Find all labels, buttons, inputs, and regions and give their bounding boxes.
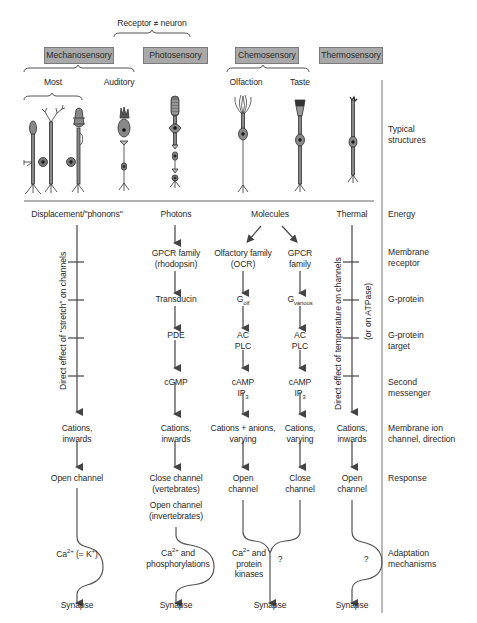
cell-mechano-1 (24, 121, 41, 194)
olf-gtarget: ACPLC (235, 330, 251, 351)
row-label-adaptation: Adaptationmechanisms (388, 548, 436, 569)
category-mechanosensory: Mechanosensory (44, 47, 114, 64)
photo-energy: Photons (161, 209, 192, 220)
photo-gtarget: PDE (167, 330, 184, 341)
photo-adaptation: Ca2+ andphosphorylations (146, 548, 209, 569)
photo-channel: Cations,inwards (161, 423, 192, 444)
photo-response: Close channel(vertebrates) (149, 473, 202, 494)
mechano-response: Open channel (51, 473, 103, 484)
brace-chemo (227, 65, 309, 72)
row-label-gtarget: G-proteintarget (388, 330, 424, 351)
cell-photoreceptor (169, 96, 181, 188)
photo-gprotein: Transducin (155, 294, 196, 305)
mechano-channel: Cations,inwards (62, 423, 93, 444)
cell-mechano-2 (39, 105, 66, 193)
cell-mechano-3 (67, 108, 86, 193)
subgroup-auditory: Auditory (104, 77, 135, 88)
olf-second: cAMPIP3 (232, 377, 255, 398)
row-label-energy: Energy (388, 209, 415, 220)
olf-response: Openchannel (228, 473, 257, 494)
photo-response-2: Open channel(invertebrates) (149, 500, 203, 521)
row-label-channel: Membrane ionchannel, direction (388, 423, 455, 444)
thermo-energy: Thermal (337, 209, 368, 220)
olf-gprotein: Golf (237, 294, 250, 305)
photo-receptor: GPCR family(rhodopsin) (152, 248, 201, 269)
taste-response: Closechannel (285, 473, 314, 494)
thermo-channel: Cations,inwards (337, 423, 368, 444)
taste-receptor: GPCRfamily (288, 248, 312, 269)
cell-thermoreceptor (348, 97, 358, 183)
category-chemosensory: Chemosensory (235, 47, 299, 64)
taste-second: cAMPIP3 (289, 377, 312, 398)
row-label-structures: Typicalstructures (388, 124, 426, 145)
thermo-response: Openchannel (337, 473, 366, 494)
cell-auditory (118, 107, 130, 191)
brace-most (24, 93, 82, 100)
cell-taste (295, 100, 305, 192)
mechano-energy: Displacement/"phonons" (31, 209, 122, 220)
subgroup-olfaction: Olfaction (229, 77, 262, 88)
photo-synapse: Synapse (160, 600, 193, 611)
photo-second: cGMP (164, 377, 187, 388)
thermo-adapt-curve (352, 500, 382, 603)
receptor-neuron-note: Receptor ≠ neuron (117, 18, 186, 29)
thermo-synapse: Synapse (336, 600, 369, 611)
brace-mechano (24, 65, 134, 72)
category-thermosensory: Thermosensory (319, 47, 383, 64)
chemo-energy: Molecules (251, 209, 289, 220)
mechano-vertical-note: Direct effect of "stretch" on channels (58, 252, 68, 390)
chemo-adaptation: Ca2+ andproteinkinases (232, 548, 266, 580)
taste-gprotein: Gvarious (287, 294, 312, 305)
cell-olfactory (235, 95, 251, 193)
taste-gtarget: ACPLC (292, 330, 308, 351)
row-label-second-messenger: Secondmessenger (388, 377, 431, 398)
taste-channel: Cations,varying (285, 423, 316, 444)
thermo-question: ? (364, 554, 369, 565)
category-photosensory: Photosensory (143, 47, 208, 64)
olf-receptor: Olfactory family(OCR) (214, 248, 272, 269)
row-label-receptor: Membranereceptor (388, 247, 429, 268)
chemo-question: ? (278, 554, 283, 565)
diagram-graphics (0, 0, 477, 623)
chemo-synapse: Synapse (254, 600, 287, 611)
subgroup-taste: Taste (290, 77, 310, 88)
row-label-response: Response (388, 473, 427, 484)
row-label-gprotein: G-protein (388, 294, 424, 305)
thermo-vertical-note-2: (or on ATPase) (363, 283, 373, 340)
mechano-synapse: Synapse (61, 600, 94, 611)
mechano-adaptation: Ca2+ (= K+) (56, 549, 98, 560)
olf-channel: Cations + anions,varying (211, 423, 276, 444)
thermo-vertical-note: Direct effect of temperature on channels (333, 257, 343, 410)
subgroup-most: Most (44, 77, 62, 88)
brace-receptor (114, 30, 190, 37)
mechano-adapt-curve (77, 488, 103, 603)
